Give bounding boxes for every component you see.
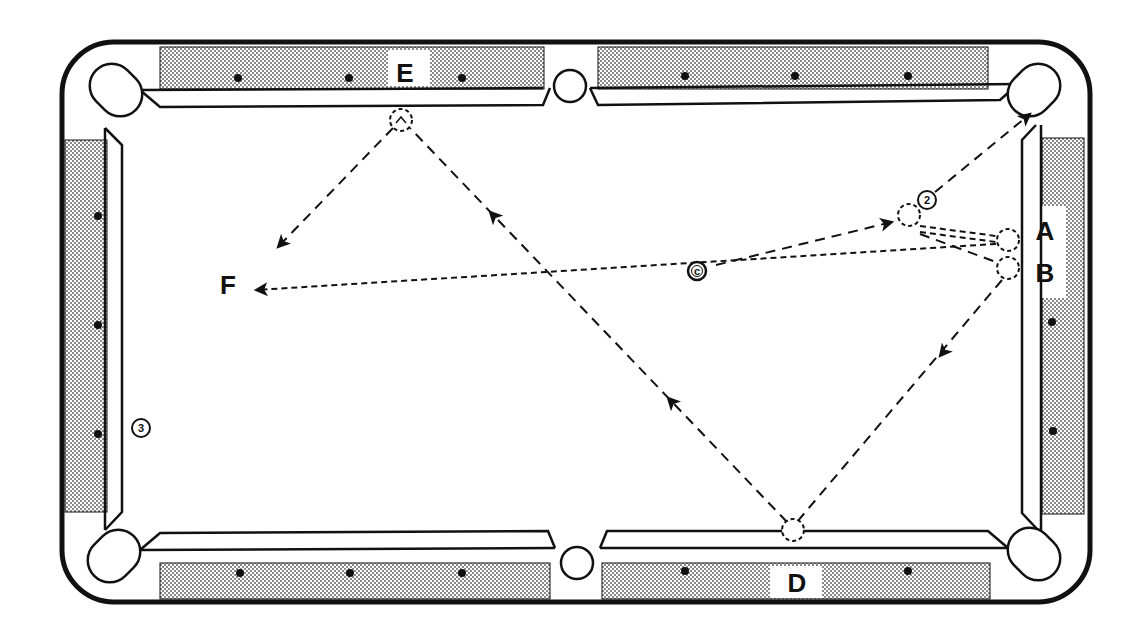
rail-top-right (598, 47, 988, 89)
table-outer-frame (62, 42, 1090, 602)
pocket-bottom-side (561, 547, 593, 579)
svg-text:c: c (694, 265, 700, 277)
ghost-ball-D (782, 519, 804, 541)
label-D: D (788, 568, 807, 598)
label-E: E (396, 58, 413, 88)
ghost-ball-E (390, 109, 412, 131)
rail-top-left (160, 47, 544, 89)
ball-3: 3 (132, 419, 150, 437)
label-B: B (1036, 258, 1055, 288)
label-A: A (1036, 216, 1055, 246)
pool-table-diagram: 2 c 3 E D A B F (0, 0, 1139, 638)
label-F: F (220, 270, 236, 300)
ghost-ball-A (997, 229, 1019, 251)
rail-right (1042, 138, 1084, 514)
ghost-ball-B (997, 257, 1019, 279)
ball-2: 2 (918, 191, 936, 209)
svg-text:2: 2 (924, 194, 930, 206)
cue-ball: c (688, 262, 706, 280)
ghost-ball-contact (898, 204, 920, 226)
svg-text:3: 3 (138, 422, 144, 434)
rail-bottom-left (160, 563, 550, 599)
pocket-top-side (554, 70, 586, 102)
